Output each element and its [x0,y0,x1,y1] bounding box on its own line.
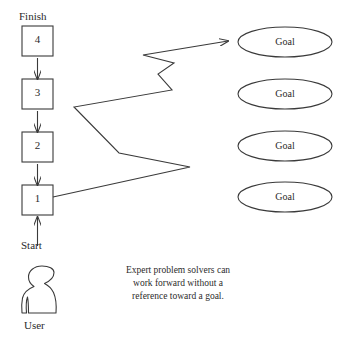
step-box-label-1: 1 [22,192,53,204]
caption-line-3: reference toward a goal. [108,290,248,303]
caption-line-2: work forward without a [108,277,248,290]
caption-line-1: Expert problem solvers can [108,264,248,277]
caption-text: Expert problem solvers can work forward … [108,264,248,304]
goal-oval-label-2: Goal [238,88,332,99]
user-silhouette-icon [22,266,57,313]
goal-oval-label-1: Goal [238,36,332,47]
zigzag-arrow-icon [53,41,228,197]
start-label: Start [21,239,42,251]
finish-label: Finish [19,10,47,22]
step-box-label-2: 2 [22,139,53,151]
goal-oval-label-3: Goal [238,140,332,151]
diagram-canvas: 4 3 2 1 Goal Goal Goal Goal Finish Start… [0,0,347,353]
user-label: User [24,319,45,331]
step-box-label-4: 4 [22,33,53,45]
step-box-label-3: 3 [22,86,53,98]
goal-oval-label-4: Goal [238,191,332,202]
